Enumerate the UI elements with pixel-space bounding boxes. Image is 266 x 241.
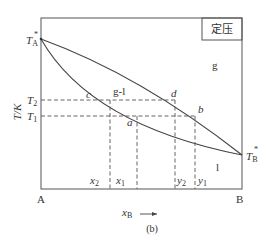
ta-star: * xyxy=(34,30,38,39)
arrowhead-icon xyxy=(152,212,157,216)
point-a-label: a xyxy=(127,116,133,128)
t2-label: T2 xyxy=(27,94,37,108)
x1-label: x1 xyxy=(115,174,125,188)
phase-diagram: 定压 TA * TB * T2 T1 T/K g l g-l c d b a x… xyxy=(0,0,266,241)
y-axis-label: T/K xyxy=(11,103,23,120)
tb-star: * xyxy=(254,145,258,154)
x2-label: x2 xyxy=(89,174,99,188)
x-axis-label: xB xyxy=(121,206,132,220)
point-d-label: d xyxy=(171,87,177,99)
corner-a-label: A xyxy=(37,193,45,205)
point-c-label: c xyxy=(86,88,91,100)
plot-frame xyxy=(41,18,242,189)
dew-point-curve xyxy=(41,39,242,155)
region-two-phase-label: g-l xyxy=(113,85,125,97)
ta-point xyxy=(40,38,43,41)
y1-label: y1 xyxy=(197,174,207,188)
region-gas-label: g xyxy=(212,59,218,71)
corner-b-label: B xyxy=(236,193,243,205)
condition-label: 定压 xyxy=(211,22,233,35)
region-liquid-label: l xyxy=(216,161,219,173)
point-b-label: b xyxy=(198,103,204,115)
figure-caption: (b) xyxy=(146,223,158,235)
t1-label: T1 xyxy=(27,110,37,124)
bubble-point-curve xyxy=(41,39,242,155)
y2-label: y2 xyxy=(176,174,186,188)
